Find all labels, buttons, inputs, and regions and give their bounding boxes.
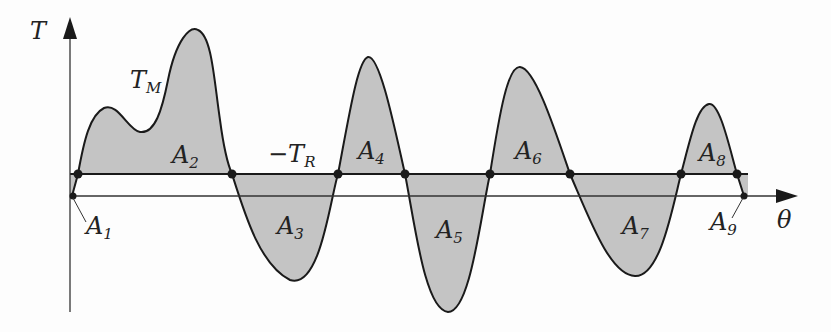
reference-label-tr: −TR xyxy=(268,142,315,170)
area-label-a1: A1 xyxy=(86,214,113,242)
a1-leader-line xyxy=(73,198,86,222)
y-axis-arrow-icon xyxy=(63,17,77,39)
area-label-a5: A5 xyxy=(436,218,463,246)
area-label-a9: A9 xyxy=(710,210,737,238)
x-axis-label: θ xyxy=(777,208,791,232)
area-label-a7: A7 xyxy=(622,214,649,242)
diagram-canvas: T θ TM −TR A1 A2 A3 A4 A5 A6 A7 A8 A9 xyxy=(0,0,831,332)
x-axis-arrow-icon xyxy=(776,189,798,203)
area-label-a4: A4 xyxy=(358,139,385,167)
y-axis-label: T xyxy=(30,19,46,43)
curve-label-tm: TM xyxy=(130,68,161,96)
area-label-a8: A8 xyxy=(699,141,726,169)
area-label-a2: A2 xyxy=(172,143,199,171)
area-label-a6: A6 xyxy=(515,139,542,167)
area-label-a3: A3 xyxy=(277,214,304,242)
